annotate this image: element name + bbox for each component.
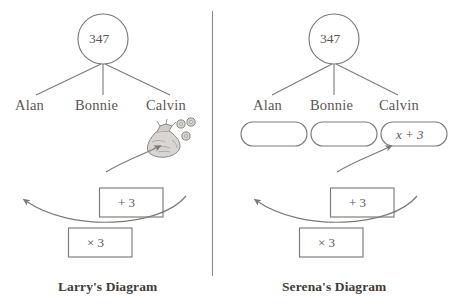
branch-line-alan-serena xyxy=(272,64,332,95)
money-bag-icon xyxy=(147,118,195,157)
serena-caption: Serena's Diagram xyxy=(282,279,386,295)
slot-pill-alan xyxy=(241,122,307,146)
branch-label-bonnie-larry: Bonnie xyxy=(75,97,118,114)
serena-times-three-arrow xyxy=(257,196,417,222)
larry-caption: Larry's Diagram xyxy=(58,279,157,295)
serena-add-three-arrow xyxy=(337,147,389,172)
branch-label-calvin-serena: Calvin xyxy=(379,97,419,114)
diagram-vector-layer xyxy=(0,0,458,308)
figure-canvas: 347 Alan Bonnie Calvin + 3 × 3 Larry's D… xyxy=(0,0,458,308)
larry-times-three-arrow xyxy=(26,196,186,222)
slot-pill-bonnie xyxy=(311,122,377,146)
branch-line-alan-larry xyxy=(36,64,101,95)
larry-add-three-arrow xyxy=(106,147,158,172)
serena-times-three-label: × 3 xyxy=(318,235,335,251)
serena-tree xyxy=(272,14,398,95)
branch-label-calvin-larry: Calvin xyxy=(146,97,186,114)
branch-line-calvin-larry xyxy=(105,64,170,95)
branch-label-alan-larry: Alan xyxy=(15,97,44,114)
branch-line-calvin-serena xyxy=(336,64,398,95)
branch-label-alan-serena: Alan xyxy=(253,97,282,114)
slot-value-calvin: x + 3 xyxy=(396,127,424,143)
larry-add-three-label: + 3 xyxy=(118,195,135,211)
larry-tree xyxy=(36,14,170,95)
larry-times-three-label: × 3 xyxy=(87,235,104,251)
serena-add-three-label: + 3 xyxy=(349,195,366,211)
root-value-serena: 347 xyxy=(320,31,340,47)
root-value-larry: 347 xyxy=(89,31,109,47)
branch-label-bonnie-serena: Bonnie xyxy=(310,97,353,114)
